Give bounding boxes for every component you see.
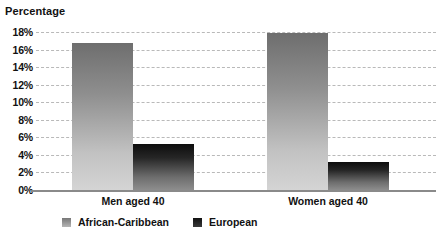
y-axis-tick-label: 8% (1, 114, 33, 126)
y-axis-tick-label: 6% (1, 131, 33, 143)
x-axis-category-label: Women aged 40 (258, 195, 398, 207)
plot-area (36, 32, 436, 190)
bar-european-men (133, 144, 194, 190)
bar-european-women (328, 162, 389, 190)
gridline (36, 32, 436, 33)
y-axis-title: Percentage (5, 5, 65, 17)
legend-item-european[interactable]: European (193, 216, 257, 228)
legend: African-CaribbeanEuropean (62, 216, 257, 228)
y-axis-tick-labels: 18%16%14%12%10%8%6%4%2%0% (0, 32, 33, 190)
bar-african-caribbean-women (267, 33, 328, 190)
legend-label: European (209, 216, 257, 228)
y-axis-tick-label: 12% (1, 79, 33, 91)
y-axis-tick-label: 14% (1, 61, 33, 73)
y-axis-tick-label: 10% (1, 96, 33, 108)
legend-label: African-Caribbean (78, 216, 169, 228)
legend-item-african-caribbean[interactable]: African-Caribbean (62, 216, 169, 228)
y-axis-tick-label: 16% (1, 44, 33, 56)
legend-swatch-icon (193, 218, 202, 227)
x-axis-category-label: Men aged 40 (63, 195, 203, 207)
y-axis-tick-label: 18% (1, 26, 33, 38)
bar-chart: Percentage 18%16%14%12%10%8%6%4%2%0% Men… (0, 0, 439, 237)
bar-african-caribbean-men (72, 43, 133, 190)
x-axis-line (31, 190, 436, 192)
legend-swatch-icon (62, 218, 71, 227)
y-axis-tick-label: 4% (1, 149, 33, 161)
y-axis-tick-label: 0% (1, 184, 33, 196)
y-axis-tick-label: 2% (1, 166, 33, 178)
